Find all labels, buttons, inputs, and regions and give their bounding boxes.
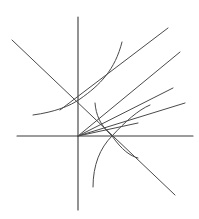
logarithmic-curve xyxy=(93,105,150,187)
decreasing-line xyxy=(12,40,175,195)
offset-line xyxy=(60,28,168,110)
graph-svg xyxy=(0,0,199,219)
origin-line-medium xyxy=(78,88,173,136)
origin-line-steep xyxy=(78,52,180,136)
function-graph-diagram xyxy=(0,0,199,219)
origin-line-shallow xyxy=(78,103,185,136)
curves-group xyxy=(12,28,185,195)
origin-short-line xyxy=(78,123,138,136)
